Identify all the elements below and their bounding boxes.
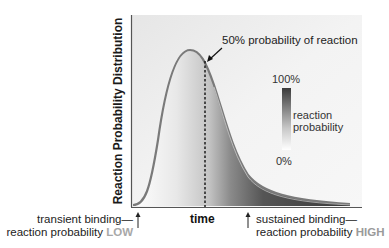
legend-min-label: 0% [276, 155, 292, 167]
legend-gradient-bar [282, 88, 291, 150]
low-emphasis: LOW [106, 226, 133, 238]
sustained-binding-label: sustained binding— reaction probability … [256, 213, 384, 239]
up-arrow-high-icon [246, 212, 251, 228]
legend-max-label: 100% [272, 73, 300, 85]
transient-binding-line2: reaction probability LOW [6, 226, 133, 239]
sustained-prefix: reaction probability [256, 226, 356, 238]
median-annotation-label: 50% probability of reaction [222, 34, 358, 46]
transient-prefix: reaction probability [6, 226, 106, 238]
sustained-binding-line1: sustained binding— [256, 213, 384, 226]
transient-binding-line1: transient binding— [6, 213, 133, 226]
x-axis-label: time [190, 212, 215, 226]
transient-binding-label: transient binding— reaction probability … [6, 213, 133, 239]
sustained-binding-line2: reaction probability HIGH [256, 226, 384, 239]
legend-title-line1: reaction [293, 109, 343, 121]
high-emphasis: HIGH [356, 226, 385, 238]
legend-title: reaction probability [293, 109, 343, 133]
legend-title-line2: probability [293, 121, 343, 133]
up-arrow-low-icon [136, 212, 141, 228]
y-axis-label: Reaction Probability Distribution [111, 18, 125, 205]
